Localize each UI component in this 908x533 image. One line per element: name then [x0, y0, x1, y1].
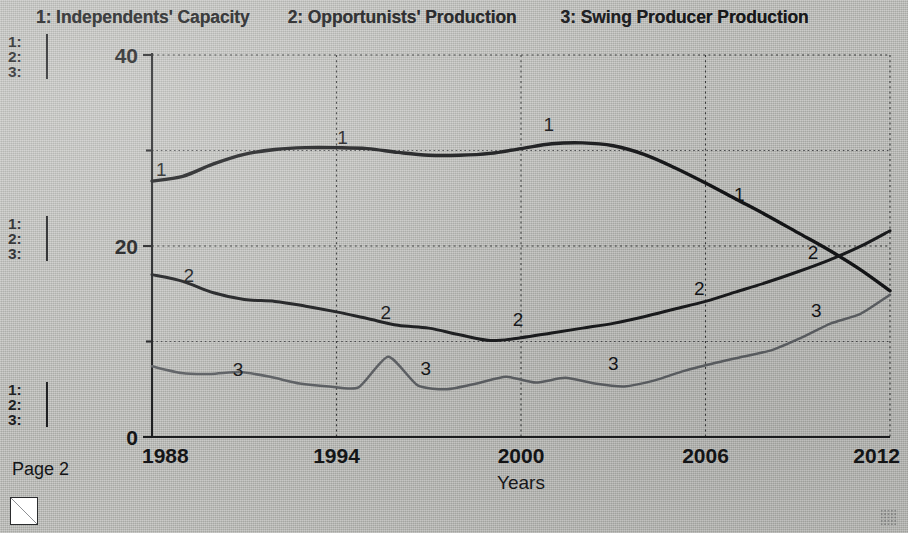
series-tag-2: 2 — [694, 278, 705, 299]
page-corner-icon — [10, 497, 38, 525]
x-axis-title: Years — [497, 472, 545, 493]
line-chart: 1111222223333 0204019881994200020062012Y… — [0, 0, 908, 533]
chart-plot-area: 1111222223333 0204019881994200020062012Y… — [0, 0, 908, 533]
series-tag-2: 2 — [513, 309, 524, 330]
series-tag-2: 2 — [184, 265, 195, 286]
x-tick-label: 2012 — [853, 444, 900, 467]
series-tag-2: 2 — [808, 242, 819, 263]
y-tick-label: 40 — [115, 44, 138, 67]
y-tick-label: 20 — [115, 235, 138, 258]
series-tag-3: 3 — [811, 300, 822, 321]
x-tick-label: 1988 — [142, 444, 189, 467]
y-tick-label: 0 — [126, 426, 138, 449]
series-tag-2: 2 — [380, 302, 391, 323]
series-tag-3: 3 — [420, 358, 431, 379]
series-tag-1: 1 — [734, 184, 745, 205]
x-tick-label: 2006 — [682, 444, 729, 467]
series-tag-1: 1 — [156, 159, 167, 180]
axis-label-layer: 0204019881994200020062012Years — [115, 44, 900, 493]
series-tag-3: 3 — [608, 353, 619, 374]
series-tag-1: 1 — [543, 114, 554, 135]
x-tick-label: 2000 — [498, 444, 545, 467]
page-number-label: Page 2 — [12, 459, 69, 480]
series-tag-3: 3 — [233, 359, 244, 380]
scan-artifact-icon — [880, 509, 898, 525]
series-tag-1: 1 — [337, 127, 348, 148]
scanned-page: 1: Independents' Capacity 2: Opportunist… — [0, 0, 908, 533]
x-tick-label: 1994 — [313, 444, 360, 467]
